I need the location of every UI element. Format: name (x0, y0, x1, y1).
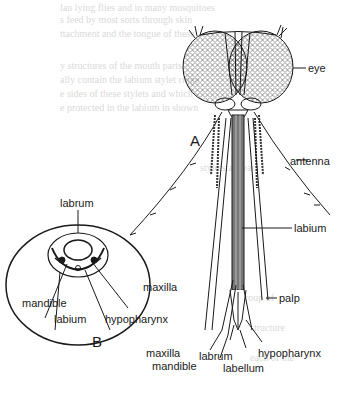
label-hypopharynx-a: hypopharynx (258, 347, 321, 359)
label-labium-a: labium (294, 222, 326, 234)
label-hypopharynx-b: hypopharynx (105, 313, 168, 325)
label-labrum-a: labrum (199, 350, 233, 362)
panel-b-letter: B (92, 333, 102, 350)
label-maxilla-b: maxilla (143, 281, 177, 293)
mosquito-diagram (0, 0, 351, 395)
label-labrum-b: labrum (60, 197, 94, 209)
label-antenna: antenna (290, 155, 330, 167)
label-eye: eye (308, 62, 326, 74)
label-maxilla-a: maxilla (146, 347, 180, 359)
label-labium-b: labium (54, 313, 86, 325)
eye-right (229, 31, 293, 103)
label-mandible-a: mandible (152, 360, 197, 372)
panel-a-letter: A (190, 132, 200, 149)
label-labellum: labellum (223, 362, 264, 374)
label-palp: palp (279, 292, 300, 304)
label-mandible-b: mandible (22, 297, 67, 309)
